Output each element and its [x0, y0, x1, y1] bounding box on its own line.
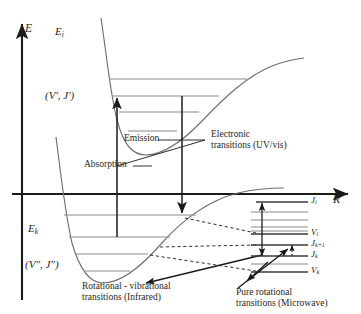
inset-level-label-Vk: Vk [311, 265, 319, 276]
inset-levels [251, 202, 308, 272]
lower-state-label: (V″, J″) [25, 258, 59, 270]
absorption-label: Absorption [84, 159, 127, 170]
electronic-transitions-label: Electronic transitions (UV/vis) [211, 129, 287, 150]
upper-curve-label: Ei [55, 25, 64, 39]
figure-canvas: E R Ei Ek (V′, J′) (V″, J″) Emission Abs… [0, 0, 361, 314]
emission-label: Emission [124, 133, 159, 144]
inset-level-label-Vi: Vi [311, 227, 318, 238]
lower-curve-label: Ek [28, 222, 38, 236]
inset-dashed-leaders [150, 218, 256, 271]
lower-vibrational-levels [64, 215, 196, 271]
inset-level-label-Jk: Jk [311, 249, 318, 260]
microwave-transitions-caption: Pure rotational transitions (Microwave) [236, 287, 328, 308]
upper-vibrational-levels [109, 79, 247, 131]
axis-label-energy: E [25, 22, 32, 35]
microwave-caption-arrow [238, 249, 288, 288]
inset-level-label-Jk1: Jk+1 [311, 238, 325, 249]
upper-state-label: (V′, J′) [45, 89, 74, 101]
electronic-leader [117, 140, 205, 166]
inset-level-label-Ji: Ji [311, 195, 317, 206]
rovib-transitions-caption: Rotational - vibrational transitions (In… [82, 281, 171, 302]
axis-label-distance: R [333, 193, 340, 206]
